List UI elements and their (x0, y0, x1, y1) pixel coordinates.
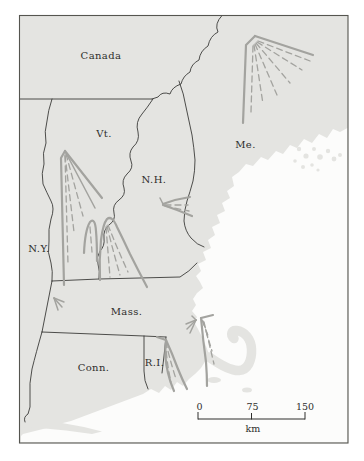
island (297, 147, 301, 151)
island (332, 157, 337, 162)
new-england-map: Canada Vt. N.H. Me. N.Y. Mass. Conn. R.I… (0, 0, 364, 461)
scale-bar-label-mid: 75 (246, 401, 258, 412)
nantucket-island (242, 388, 252, 393)
label-massachusetts: Mass. (111, 306, 143, 317)
scale-bar-label-end: 150 (296, 401, 314, 412)
marthas-vineyard-island (207, 377, 221, 383)
island (317, 154, 323, 160)
island (326, 149, 330, 153)
label-connecticut: Conn. (78, 362, 110, 373)
label-maine: Me. (235, 139, 256, 150)
map-figure-page: Canada Vt. N.H. Me. N.Y. Mass. Conn. R.I… (0, 0, 364, 461)
label-vermont: Vt. (95, 128, 112, 139)
island (338, 153, 342, 157)
scale-bar-label-start: 0 (196, 401, 202, 412)
label-canada: Canada (81, 50, 122, 61)
label-rhode-island: R.I. (145, 357, 164, 368)
island (303, 153, 308, 158)
island (310, 163, 314, 167)
label-new-hampshire: N.H. (142, 174, 167, 185)
island (293, 159, 297, 163)
island (312, 147, 316, 151)
island (301, 165, 305, 169)
label-new-york: N.Y. (28, 243, 49, 254)
scale-bar-unit: km (246, 423, 261, 434)
island (316, 168, 319, 171)
